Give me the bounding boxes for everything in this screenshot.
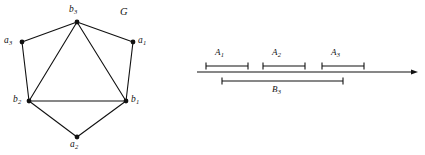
interval-label-B3: B3	[272, 85, 281, 94]
graph-edge-a3-b2	[22, 42, 29, 101]
graph-vertex-b3	[75, 20, 80, 25]
interval-lines	[197, 63, 418, 85]
interval-label-A2: A2	[272, 48, 281, 57]
figure-canvas	[0, 0, 425, 155]
graph-edge-a3-b3	[22, 22, 77, 42]
vertex-subscript: 3	[74, 8, 77, 15]
graph-edge-b3-b1	[77, 22, 126, 101]
graph-edge-a1-b1	[126, 42, 133, 101]
interval-letter: A	[331, 47, 337, 57]
graph-vertex-a1	[131, 40, 136, 45]
graph-vertex-a3	[20, 40, 25, 45]
vertex-subscript: 3	[9, 39, 12, 46]
graph-edge-a2-b1	[77, 101, 126, 137]
graph-vertex-label-a2: a2	[70, 140, 78, 150]
graph-edge-b3-b2	[29, 22, 77, 101]
graph-vertex-label-a3: a3	[4, 36, 12, 46]
figure-root: b3a3a1b2b1a2 G A1A2A3B3	[0, 0, 425, 155]
interval-subscript: 2	[278, 51, 281, 58]
graph-edges	[22, 22, 133, 137]
vertex-subscript: 2	[75, 143, 78, 150]
graph-vertex-label-b1: b1	[131, 95, 139, 105]
graph-edge-b3-a1	[77, 22, 133, 42]
interval-letter: A	[272, 47, 278, 57]
interval-subscript: 1	[221, 51, 224, 58]
vertex-subscript: 1	[143, 39, 146, 46]
vertex-subscript: 2	[18, 98, 21, 105]
graph-vertex-label-b2: b2	[13, 95, 21, 105]
vertex-subscript: 1	[136, 98, 139, 105]
graph-vertex-b2	[27, 99, 32, 104]
graph-vertex-a2	[75, 135, 80, 140]
graph-vertex-label-b3: b3	[69, 5, 77, 15]
interval-letter: B	[272, 84, 278, 94]
interval-subscript: 3	[337, 51, 340, 58]
interval-letter: A	[215, 47, 221, 57]
axis-right-arrow-icon	[411, 69, 418, 74]
graph-name-label: G	[120, 7, 128, 18]
graph-vertices	[20, 20, 136, 140]
interval-subscript: 3	[278, 88, 281, 95]
interval-label-A1: A1	[215, 48, 224, 57]
graph-edge-b2-a2	[29, 101, 77, 137]
interval-label-A3: A3	[331, 48, 340, 57]
graph-vertex-label-a1: a1	[138, 36, 146, 46]
graph-vertex-b1	[124, 99, 129, 104]
